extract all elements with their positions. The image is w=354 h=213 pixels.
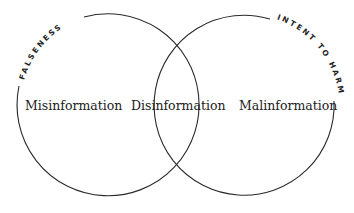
venn-diagram: FALSENESS INTENT TO HARM Misinformation … bbox=[0, 0, 354, 213]
intent-to-harm-label: INTENT TO HARM bbox=[276, 13, 346, 96]
malinformation-label: Malinformation bbox=[239, 98, 337, 113]
misinformation-label: Misinformation bbox=[25, 98, 122, 113]
falseness-label: FALSENESS bbox=[17, 22, 64, 81]
disinformation-label: Disinformation bbox=[131, 98, 226, 113]
